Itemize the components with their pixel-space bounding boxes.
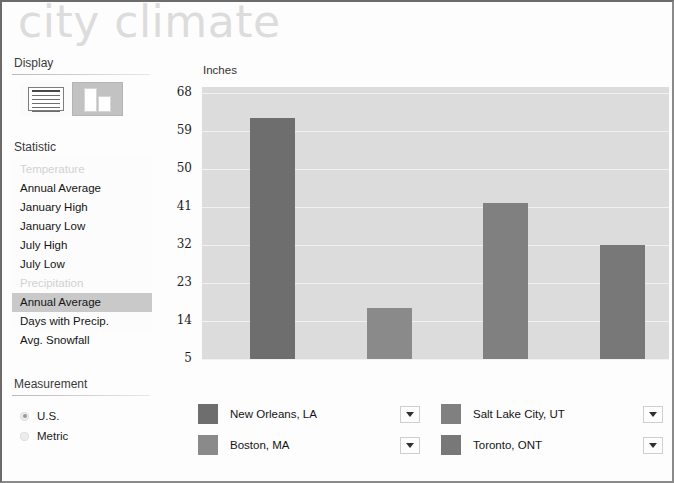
chart-legend: New Orleans, LABoston, MASalt Lake City,… (198, 402, 668, 464)
y-axis-tick-label: 23 (152, 275, 192, 289)
y-axis-title: Inches (203, 64, 237, 76)
measurement-option-metric-label: Metric (37, 430, 68, 442)
statistic-group-header: Precipitation (12, 274, 152, 293)
chart-gridline (202, 359, 669, 360)
chart-bar (250, 118, 295, 359)
chevron-down-icon (406, 412, 414, 417)
chevron-down-icon (649, 443, 657, 448)
radio-metric-icon (20, 432, 29, 441)
city-select-dropdown-button[interactable] (643, 406, 663, 423)
page-title: city climate (18, 0, 280, 47)
chart-bar (483, 203, 528, 359)
legend-color-swatch (441, 404, 461, 424)
y-axis-tick-label: 68 (152, 85, 192, 99)
measurement-option-metric[interactable]: Metric (20, 430, 68, 442)
statistic-group-header: Temperature (12, 160, 152, 179)
y-axis-tick-label: 50 (152, 161, 192, 175)
legend-item[interactable]: Boston, MA (198, 433, 420, 457)
chart-bar (367, 308, 412, 359)
measurement-option-us-label: U.S. (37, 410, 59, 422)
measurement-section-label: Measurement (14, 377, 87, 391)
measurement-divider (12, 395, 150, 396)
statistic-item[interactable]: January Low (12, 217, 152, 236)
city-climate-window: city climate Display Statistic Temperatu… (0, 0, 674, 483)
legend-item[interactable]: Toronto, ONT (441, 433, 663, 457)
chart-view-button[interactable] (72, 82, 123, 116)
statistic-section-label: Statistic (14, 140, 56, 154)
display-divider (12, 74, 150, 75)
legend-color-swatch (198, 435, 218, 455)
y-axis-tick-label: 32 (152, 237, 192, 251)
legend-item-label: New Orleans, LA (230, 408, 400, 420)
city-select-dropdown-button[interactable] (400, 406, 420, 423)
statistic-item[interactable]: Avg. Snowfall (12, 331, 152, 350)
sidebar: Display Statistic TemperatureAnnual Aver… (4, 52, 156, 477)
chart-gridline (202, 93, 669, 94)
legend-item[interactable]: New Orleans, LA (198, 402, 420, 426)
display-section-label: Display (14, 56, 53, 70)
y-axis-tick-label: 5 (152, 351, 192, 365)
city-select-dropdown-button[interactable] (643, 437, 663, 454)
statistic-item[interactable]: January High (12, 198, 152, 217)
bar-chart-icon (81, 87, 115, 112)
measurement-option-us[interactable]: U.S. (20, 410, 59, 422)
radio-us-icon (20, 412, 29, 421)
legend-item-label: Boston, MA (230, 439, 400, 451)
table-view-button[interactable] (20, 82, 71, 116)
chart-plot-area (202, 87, 669, 359)
city-select-dropdown-button[interactable] (400, 437, 420, 454)
legend-color-swatch (441, 435, 461, 455)
table-icon (28, 87, 64, 111)
statistic-item[interactable]: July High (12, 236, 152, 255)
legend-item[interactable]: Salt Lake City, UT (441, 402, 663, 426)
y-axis-tick-label: 14 (152, 313, 192, 327)
legend-item-label: Salt Lake City, UT (473, 408, 643, 420)
legend-color-swatch (198, 404, 218, 424)
statistic-item[interactable]: July Low (12, 255, 152, 274)
statistic-item[interactable]: Annual Average (12, 293, 152, 312)
statistic-item[interactable]: Days with Precip. (12, 312, 152, 331)
y-axis-tick-label: 59 (152, 123, 192, 137)
chart-bar (600, 245, 645, 359)
legend-item-label: Toronto, ONT (473, 439, 643, 451)
statistic-item[interactable]: Annual Average (12, 179, 152, 198)
statistic-list[interactable]: TemperatureAnnual AverageJanuary HighJan… (12, 157, 152, 332)
y-axis-tick-label: 41 (152, 199, 192, 213)
chevron-down-icon (406, 443, 414, 448)
chevron-down-icon (649, 412, 657, 417)
display-toggle-group (20, 82, 123, 116)
